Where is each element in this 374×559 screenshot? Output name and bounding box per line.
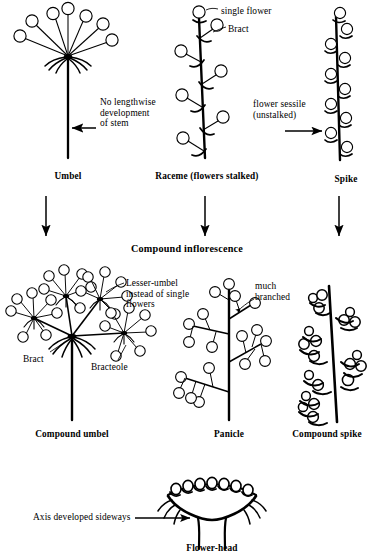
panicle-branch-3 xyxy=(229,325,271,370)
leader-single-flower xyxy=(206,8,218,10)
panicle-branch-2 xyxy=(184,309,229,353)
panicle-branch-4 xyxy=(174,363,229,408)
spikelet-4 xyxy=(341,351,366,391)
caption-spike: Spike xyxy=(335,174,358,184)
spikelet-5 xyxy=(304,371,331,395)
flower-head-figure xyxy=(158,477,266,549)
caption-compound-spike: Compound spike xyxy=(292,429,362,439)
umbel-annotation: No lengthwise development of stem xyxy=(100,97,156,129)
spikelet-1 xyxy=(309,290,330,315)
spike-figure xyxy=(325,7,353,160)
spikelet-6 xyxy=(298,392,327,426)
lesser-umbel-a xyxy=(6,288,62,342)
caption-raceme: Raceme (flowers stalked) xyxy=(155,171,258,181)
spikelet-2 xyxy=(336,308,360,331)
lesser-umbel-label: Lesser-umbel instead of single flowers xyxy=(126,278,189,310)
umbel-figure xyxy=(14,2,118,158)
caption-flower-head: Flower-head xyxy=(186,543,237,553)
caption-compound-umbel: Compound umbel xyxy=(35,429,109,439)
inflorescence-diagram: No lengthwise development of stem single… xyxy=(0,0,374,559)
caption-umbel: Umbel xyxy=(54,171,81,181)
caption-panicle: Panicle xyxy=(214,429,244,439)
spikelet-3 xyxy=(299,327,327,365)
much-branched-label: much branched xyxy=(255,281,290,302)
bract-label-compound-umbel: Bract xyxy=(23,354,44,365)
axis-sideways-label: Axis developed sideways xyxy=(33,512,131,523)
bracteole-label: Bracteole xyxy=(91,362,128,373)
single-flower-label: single flower xyxy=(221,6,272,17)
compound-spike-figure xyxy=(298,286,366,425)
spike-annotation: flower sessile (unstalked) xyxy=(253,99,306,120)
bract-label-raceme: Bract xyxy=(228,24,249,35)
compound-inflorescence-title: Compound inflorescence xyxy=(131,243,243,254)
lesser-umbel-d xyxy=(100,303,156,361)
